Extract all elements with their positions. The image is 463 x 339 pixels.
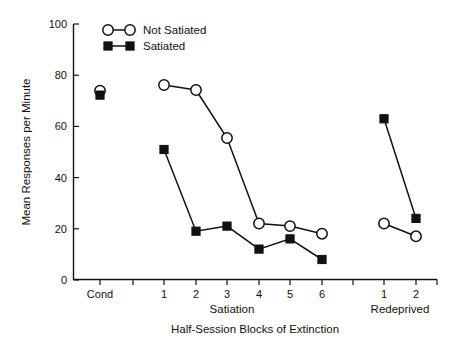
- data-point-not-satiated-redeprived-1: [379, 218, 389, 228]
- y-tick-label-100: 100: [49, 18, 67, 30]
- legend-label-satiated: Satiated: [143, 40, 185, 52]
- chart-figure: 100 80 60 40 20 0 Mean Responses per Min…: [0, 0, 463, 339]
- y-tick-label-80: 80: [55, 69, 67, 81]
- data-point-satiated-cond: [96, 91, 104, 99]
- data-point-satiated-satiation-4: [255, 245, 263, 253]
- legend-label-not-satiated: Not Satiated: [143, 24, 206, 36]
- series-not-satiated: [95, 80, 421, 242]
- series-satiated-line: [164, 150, 322, 260]
- phase-label-satiation: Satiation: [210, 303, 255, 315]
- mean-responses-line-chart: 100 80 60 40 20 0 Mean Responses per Min…: [0, 0, 463, 339]
- data-point-satiated-satiation-2: [192, 227, 200, 235]
- x-tick-label-satiation-1: 1: [161, 288, 167, 300]
- data-point-satiated-redeprived-2: [412, 214, 420, 222]
- legend-entry-satiated: Satiated: [104, 40, 185, 52]
- y-tick-label-0: 0: [61, 274, 67, 286]
- y-tick-labels: 100 80 60 40 20 0: [49, 18, 67, 286]
- chart-legend: Not Satiated Satiated: [103, 24, 206, 52]
- data-point-satiated-satiation-3: [223, 222, 231, 230]
- x-tick-label-redeprived-1: 1: [381, 288, 387, 300]
- series-satiated-line-redeprived: [384, 119, 416, 219]
- series-satiated: [96, 91, 420, 264]
- x-tick-label-satiation-4: 4: [256, 288, 262, 300]
- legend-marker-open-circle-icon-2: [125, 25, 135, 35]
- y-tick-marks: [74, 24, 80, 280]
- data-point-satiated-redeprived-1: [380, 115, 388, 123]
- x-tick-labels: Cond 1 2 3 4 5 6 1 2: [87, 288, 419, 300]
- x-axis-title: Half-Session Blocks of Extinction: [171, 323, 339, 335]
- data-point-not-satiated-satiation-6: [317, 229, 327, 239]
- x-tick-label-redeprived-2: 2: [413, 288, 419, 300]
- x-tick-label-satiation-2: 2: [193, 288, 199, 300]
- legend-marker-open-circle-icon: [103, 25, 113, 35]
- x-tick-label-satiation-6: 6: [319, 288, 325, 300]
- y-tick-label-40: 40: [55, 172, 67, 184]
- x-tick-label-satiation-5: 5: [287, 288, 293, 300]
- y-tick-label-60: 60: [55, 120, 67, 132]
- data-point-not-satiated-satiation-3: [222, 133, 232, 143]
- phase-group-labels: Satiation Redeprived: [210, 303, 430, 315]
- x-tick-marks: [100, 280, 437, 286]
- data-point-not-satiated-redeprived-2: [411, 231, 421, 241]
- legend-entry-not-satiated: Not Satiated: [103, 24, 206, 36]
- y-tick-label-20: 20: [55, 223, 67, 235]
- data-point-not-satiated-satiation-1: [159, 80, 169, 90]
- data-point-satiated-satiation-5: [286, 235, 294, 243]
- data-point-satiated-satiation-6: [318, 255, 326, 263]
- data-point-satiated-satiation-1: [160, 145, 168, 153]
- legend-marker-filled-square-icon-2: [126, 42, 134, 50]
- phase-label-redeprived: Redeprived: [371, 303, 430, 315]
- y-axis-title: Mean Responses per Minute: [20, 78, 32, 225]
- data-point-not-satiated-satiation-4: [254, 218, 264, 228]
- data-point-not-satiated-satiation-2: [191, 85, 201, 95]
- x-tick-label-cond: Cond: [87, 288, 113, 300]
- data-point-not-satiated-satiation-5: [285, 221, 295, 231]
- legend-marker-filled-square-icon: [104, 42, 112, 50]
- x-tick-label-satiation-3: 3: [224, 288, 230, 300]
